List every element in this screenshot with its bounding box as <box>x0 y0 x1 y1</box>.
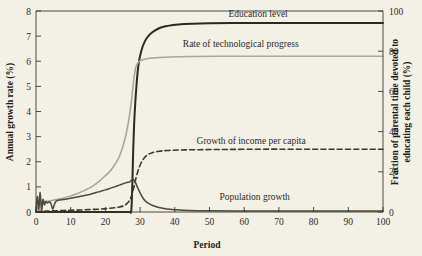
x-axis-tick-label: 40 <box>170 217 180 227</box>
y2-axis-tick-label: 0 <box>389 208 394 218</box>
series-annotation-2: Growth of income per capita <box>197 136 307 146</box>
x-axis-tick-label: 20 <box>101 217 111 227</box>
x-axis-tick-label: 60 <box>239 217 249 227</box>
series-annotation-1: Rate of technological progress <box>183 39 299 49</box>
x-axis-tick-label: 10 <box>66 217 76 227</box>
y-axis-tick-label: 4 <box>26 107 31 117</box>
x-axis-tick-label: 50 <box>205 217 215 227</box>
x-axis-tick-label: 100 <box>376 217 391 227</box>
y-axis-tick-label: 7 <box>26 32 31 42</box>
x-axis-title: Period <box>194 240 222 250</box>
y-axis-tick-label: 6 <box>26 57 31 67</box>
y-axis-tick-label: 8 <box>26 7 31 17</box>
x-axis-tick-label: 90 <box>344 217 354 227</box>
y-axis-tick-label: 5 <box>26 82 31 92</box>
series-annotation-0: Education level <box>228 9 288 19</box>
chart-svg: 0102030405060708090100012345678020406080… <box>0 0 422 256</box>
x-axis-tick-label: 30 <box>135 217 145 227</box>
y-axis-tick-label: 1 <box>26 182 31 192</box>
x-axis-tick-label: 70 <box>274 217 284 227</box>
y-axis-tick-label: 3 <box>26 132 31 142</box>
y-axis-tick-label: 0 <box>26 208 31 218</box>
y2-axis-tick-label: 100 <box>389 7 404 17</box>
x-axis-tick-label: 0 <box>34 217 39 227</box>
y-axis-title: Annual growth rate (%) <box>5 63 16 161</box>
y2-axis-title-line2: educating each child (%) <box>402 61 413 162</box>
y-axis-tick-label: 2 <box>26 157 31 167</box>
x-axis-tick-label: 80 <box>309 217 319 227</box>
series-annotation-3: Population growth <box>219 192 290 202</box>
y2-axis-title-line1: Fraction of parental time devoted to <box>390 39 400 186</box>
chart-figure: 0102030405060708090100012345678020406080… <box>0 0 422 256</box>
